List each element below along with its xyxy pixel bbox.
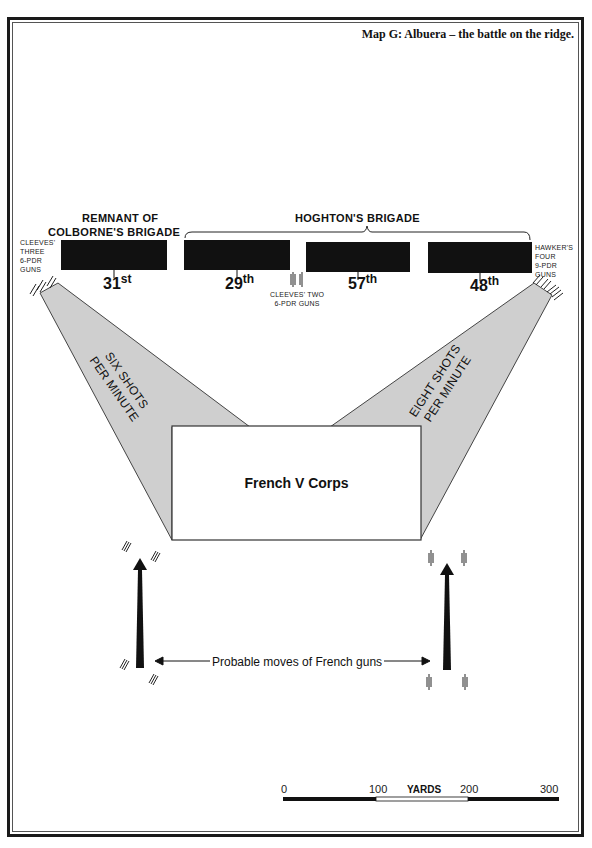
scale-tick-300: 300 <box>540 783 558 795</box>
hoghton-brigade-label: HOGHTON'S BRIGADE <box>295 212 420 224</box>
cleeves-three-guns-label: CLEEVES' THREE 6-PDR GUNS <box>20 238 55 274</box>
scale-tick-0: 0 <box>281 783 287 795</box>
colborne-brigade-label-line2: COLBORNE'S BRIGADE <box>48 226 180 238</box>
cleeves-two-guns-icon <box>291 272 302 287</box>
cleeves-two-guns-label: CLEEVES' TWO 6-PDR GUNS <box>270 290 324 308</box>
regiment-29th: 29th <box>225 272 254 293</box>
scale-tick-100: 100 <box>369 783 387 795</box>
scale-bar <box>283 797 559 801</box>
regiment-block-29th <box>184 240 290 270</box>
colborne-brigade-label-line1: REMNANT OF <box>82 212 158 224</box>
regiment-31st: 31st <box>103 272 131 293</box>
regiment-57th: 57th <box>348 272 377 293</box>
regiment-48th: 48th <box>470 274 499 295</box>
advance-arrow-left-icon <box>133 558 147 668</box>
regiment-block-57th <box>306 242 410 272</box>
map-graphics <box>0 0 592 848</box>
scale-title: YARDS <box>407 784 441 795</box>
french-v-corps-label: French V Corps <box>172 426 421 540</box>
advance-arrow-right-icon <box>440 563 454 670</box>
regiment-block-48th <box>428 242 532 273</box>
regiment-block-31st <box>61 240 167 270</box>
hoghton-brace <box>185 226 530 240</box>
probable-moves-label: Probable moves of French guns <box>210 655 384 669</box>
scale-tick-200: 200 <box>460 783 478 795</box>
hawker-four-guns-label: HAWKER'S FOUR 9-PDR GUNS <box>535 243 573 279</box>
